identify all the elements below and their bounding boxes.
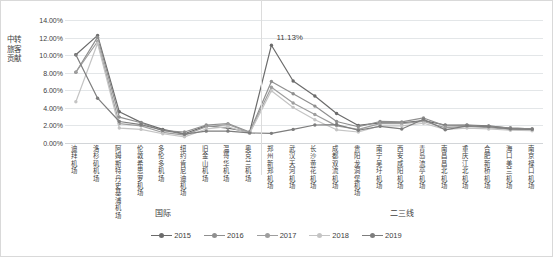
x-axis-category-label: 青岛流亭机场 [419, 145, 428, 189]
data-point [270, 132, 273, 135]
x-axis-category-label: 迪拜机场 [71, 145, 80, 175]
x-axis-category-label: 纽约肯尼迪机场 [180, 145, 189, 197]
data-point [96, 42, 99, 45]
data-point [335, 112, 338, 115]
data-point [139, 123, 142, 126]
x-axis-category-label: 重庆江北机场 [462, 145, 471, 189]
legend-swatch [309, 232, 330, 240]
x-axis-category-label: 多伦多机场 [158, 145, 167, 182]
data-point [161, 129, 164, 132]
x-axis-category-label: 温哥华机场 [223, 145, 232, 182]
series-lines [65, 20, 543, 143]
data-point [183, 133, 186, 136]
data-point [465, 124, 468, 127]
data-point [313, 123, 316, 126]
data-point [313, 113, 316, 116]
legend-label: 2018 [332, 231, 349, 240]
legend-item-2019[interactable]: 2019 [362, 231, 402, 240]
x-axis-category-label: 西安咸阳机场 [397, 145, 406, 189]
data-point [96, 35, 99, 38]
data-point [291, 79, 294, 82]
group-label-international: 国际 [155, 207, 171, 218]
legend-label: 2017 [280, 231, 297, 240]
data-point [313, 104, 316, 107]
data-point [400, 127, 403, 130]
data-point [335, 120, 338, 123]
data-point [270, 89, 273, 92]
y-axis-tick-label: 2.00% [43, 122, 63, 129]
legend-label: 2015 [174, 231, 191, 240]
data-point [422, 122, 425, 125]
data-point [291, 128, 294, 131]
series-line [76, 35, 532, 133]
data-point [205, 129, 208, 132]
series-line [76, 55, 532, 135]
data-point [530, 128, 533, 131]
data-point [226, 125, 229, 128]
data-point [270, 44, 273, 47]
plot-area [65, 20, 543, 143]
x-axis-category-label: 武汉天河机场 [289, 145, 298, 189]
legend-item-2016[interactable]: 2016 [204, 231, 244, 240]
y-axis-tick-label: 6.00% [43, 87, 63, 94]
data-point [422, 118, 425, 121]
y-axis-tick-labels: 0.00%2.00%4.00%6.00%8.00%10.00%12.00%14.… [23, 1, 65, 256]
x-axis-category-label: 成都双流机场 [332, 145, 341, 189]
y-axis-tick-label: 12.00% [39, 34, 63, 41]
x-axis-category-label: 贵阳龙洞堡机场 [354, 145, 363, 197]
x-axis-category-label: 南昌昌北机场 [441, 145, 450, 189]
legend-swatch [204, 232, 225, 240]
data-point [270, 80, 273, 83]
legend-swatch [362, 232, 383, 240]
x-axis-category-label: 南宁吴圩机场 [376, 145, 385, 189]
data-point [291, 106, 294, 109]
data-point [74, 100, 77, 103]
data-point [487, 125, 490, 128]
x-axis-category-label: 奥克兰机场 [245, 145, 254, 182]
legend-label: 2019 [385, 231, 402, 240]
data-point [74, 71, 77, 74]
legend-item-2017[interactable]: 2017 [257, 231, 297, 240]
data-point [139, 128, 142, 131]
data-point [291, 92, 294, 95]
group-label-tier23: 二三线 [390, 207, 414, 218]
legend-item-2018[interactable]: 2018 [309, 231, 349, 240]
data-point [335, 128, 338, 131]
legend-swatch [257, 232, 278, 240]
data-point [400, 124, 403, 127]
y-axis-tick-label: 0.00% [43, 140, 63, 147]
y-axis-tick-label: 10.00% [39, 52, 63, 59]
data-point [118, 120, 121, 123]
x-axis-category-label: 阿姆斯特丹史基浦机场 [115, 145, 124, 219]
data-point [291, 101, 294, 104]
x-axis-category-labels: 迪拜机场洛杉矶机场阿姆斯特丹史基浦机场伦敦希思罗机场多伦多机场纽约肯尼迪机场旧金… [65, 145, 543, 203]
data-point [444, 128, 447, 131]
series-2015 [74, 34, 534, 136]
series-line [76, 37, 532, 132]
data-point [118, 126, 121, 129]
legend-swatch [151, 232, 172, 240]
gridline [65, 143, 543, 144]
data-point [313, 118, 316, 121]
y-axis-tick-label: 14.00% [39, 17, 63, 24]
x-axis-category-label: 长沙黄花机场 [310, 145, 319, 189]
data-point [313, 94, 316, 97]
x-axis-category-label: 伦敦希思罗机场 [137, 145, 146, 197]
data-point [161, 132, 164, 135]
data-point [74, 53, 77, 56]
x-axis-category-label: 合肥新桥机场 [484, 145, 493, 189]
x-axis-category-label: 南京禄口机场 [528, 145, 537, 189]
data-point [248, 131, 251, 134]
x-axis-category-label: 郑州新郑机场 [267, 145, 276, 189]
y-axis-title: 中转旅客贡献 [7, 35, 21, 64]
x-axis-category-label: 旧金山机场 [202, 145, 211, 182]
data-point [226, 129, 229, 132]
data-point [509, 127, 512, 130]
data-point [378, 125, 381, 128]
data-point [96, 96, 99, 99]
legend-item-2015[interactable]: 2015 [151, 231, 191, 240]
y-axis-tick-label: 4.00% [43, 104, 63, 111]
x-axis-category-label: 海口美兰机场 [506, 145, 515, 189]
x-axis-category-label: 洛杉矶机场 [93, 145, 102, 182]
peak-data-label: 11.13% [276, 33, 303, 42]
